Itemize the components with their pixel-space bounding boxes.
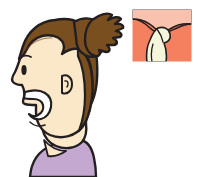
illustration-svg: Woman in profile with open mouth and thr… [0,0,198,177]
eye [21,65,26,75]
throat-closeup-panel [132,9,192,62]
ear [62,75,72,93]
illustration-canvas: Woman in profile with open mouth and thr… [0,0,198,177]
